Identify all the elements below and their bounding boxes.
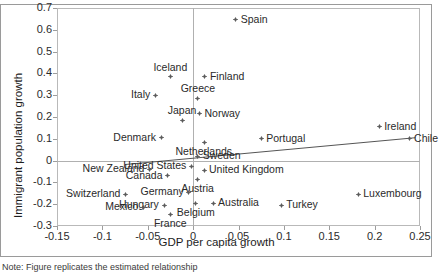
data-point-marker — [165, 173, 170, 178]
data-point-marker — [259, 136, 264, 141]
data-point-label: Norway — [204, 108, 240, 119]
data-point-label: Chile — [414, 133, 438, 144]
data-point-marker — [168, 212, 173, 217]
data-point-label: Greece — [181, 83, 215, 94]
data-point-marker — [377, 124, 382, 129]
y-axis-label: Immigrant population growth — [12, 73, 24, 218]
data-point-label: Finland — [210, 71, 244, 82]
data-point-label: United Kingdom — [209, 164, 284, 175]
data-point-label: Switzerland — [66, 188, 120, 199]
data-point-label: Canada — [126, 170, 163, 181]
x-axis-label: GDP per capita growth — [0, 236, 433, 248]
data-point-label: Luxembourg — [363, 188, 421, 199]
data-point-label: Sweden — [203, 150, 241, 161]
data-point-marker — [407, 136, 412, 141]
data-point-marker — [356, 192, 361, 197]
data-point-marker — [233, 17, 238, 22]
data-point-marker — [180, 118, 185, 123]
data-point-marker — [279, 203, 284, 208]
data-point-marker — [168, 74, 173, 79]
figure-note: Note: Figure replicates the estimated re… — [2, 262, 198, 272]
data-point-label: Iceland — [153, 62, 187, 73]
data-point-label: Spain — [241, 14, 268, 25]
data-point-marker — [189, 164, 194, 169]
data-point-marker — [202, 140, 207, 145]
data-point-marker — [211, 201, 216, 206]
data-point-marker — [195, 177, 200, 182]
data-point-marker — [202, 168, 207, 173]
data-point-marker — [197, 111, 202, 116]
data-point-marker — [186, 190, 191, 195]
data-point-label: Australia — [218, 197, 259, 208]
data-point-label: Japan — [168, 105, 197, 116]
data-point-marker — [195, 154, 200, 159]
data-point-label: Italy — [131, 89, 150, 100]
data-point-label: Mexico — [105, 201, 138, 212]
data-point-label: Denmark — [113, 132, 156, 143]
data-point-marker — [162, 203, 167, 208]
data-point-marker — [195, 96, 200, 101]
data-point-marker — [123, 192, 128, 197]
data-point-label: Turkey — [286, 199, 318, 210]
data-point-marker — [193, 201, 198, 206]
data-point-marker — [159, 135, 164, 140]
data-point-label: Germany — [141, 186, 184, 197]
data-point-marker — [153, 93, 158, 98]
data-point-marker — [141, 205, 146, 210]
data-point-label: Ireland — [384, 121, 416, 132]
data-point-label: Portugal — [266, 133, 305, 144]
data-point-marker — [202, 74, 207, 79]
data-point-label: France — [154, 218, 187, 229]
